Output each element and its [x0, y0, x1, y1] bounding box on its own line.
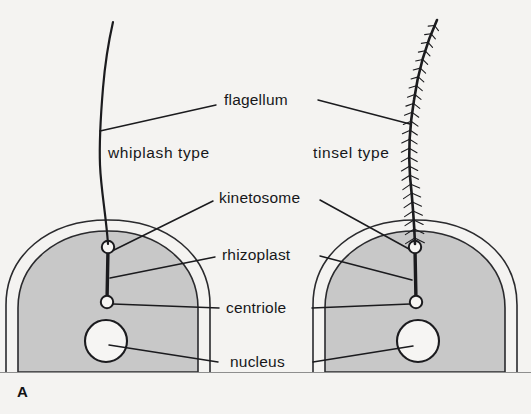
mastigoneme: [405, 211, 414, 217]
mastigoneme-group: [401, 25, 438, 243]
leader-kinetosome-left: [114, 201, 213, 250]
panel-letter-a: A: [17, 383, 28, 400]
mastigoneme: [423, 59, 428, 64]
mastigoneme: [425, 51, 430, 56]
mastigoneme: [404, 193, 412, 198]
leader-flagellum-right: [318, 100, 410, 124]
right-centriole: [410, 296, 422, 308]
mastigoneme: [416, 86, 422, 91]
mastigoneme: [418, 77, 424, 82]
left-cell: [6, 22, 210, 372]
mastigoneme: [420, 68, 425, 73]
label-flagellum: flagellum: [224, 91, 288, 108]
label-rhizoplast: rhizoplast: [222, 246, 291, 263]
left-flagellum-whiplash: [100, 22, 113, 244]
mastigoneme: [413, 103, 419, 108]
leader-flagellum-left: [100, 105, 216, 131]
mastigoneme: [428, 25, 434, 26]
label-tinsel-type: tinsel type: [313, 144, 389, 161]
label-centriole: centriole: [226, 299, 286, 316]
mastigoneme: [403, 184, 411, 189]
right-flagellum-tinsel: [401, 20, 438, 244]
left-rhizoplast: [107, 249, 108, 301]
label-kinetosome: kinetosome: [219, 189, 300, 206]
label-nucleus: nucleus: [230, 353, 285, 370]
figure-panel-a: flagellum whiplash type tinsel type kine…: [0, 0, 531, 414]
mastigoneme: [431, 34, 435, 39]
mastigoneme: [428, 42, 432, 47]
left-centriole: [101, 296, 113, 308]
flagellum-diagram: flagellum whiplash type tinsel type kine…: [0, 0, 531, 414]
right-rhizoplast: [415, 249, 416, 301]
mastigoneme: [404, 202, 412, 208]
mastigoneme: [402, 175, 410, 180]
mastigoneme: [435, 25, 439, 30]
right-cell: [313, 20, 517, 372]
label-whiplash-type: whiplash type: [107, 144, 210, 161]
left-nucleus: [85, 320, 127, 362]
leader-kinetosome-right: [320, 200, 409, 249]
right-nucleus: [397, 320, 439, 362]
